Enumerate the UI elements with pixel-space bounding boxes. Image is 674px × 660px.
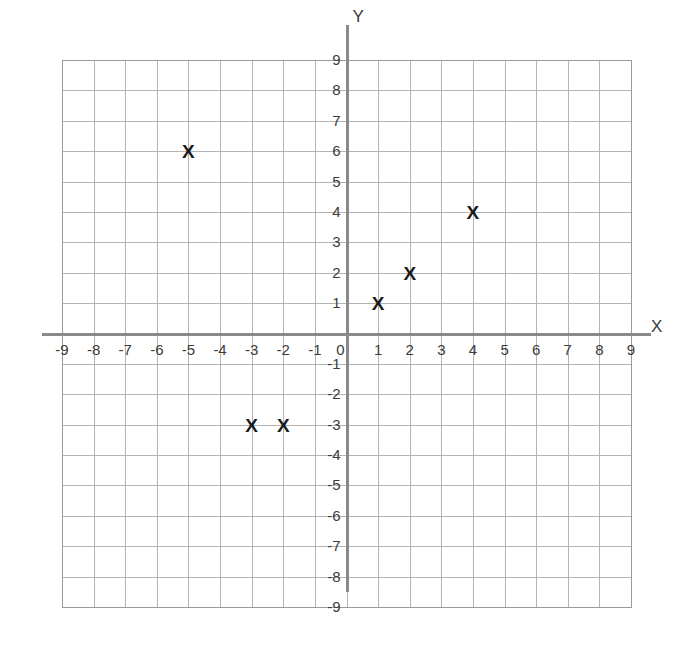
data-point: X — [372, 294, 385, 313]
y-tick-label-4: 4 — [303, 204, 341, 219]
y-tick-label-neg7: -7 — [303, 538, 341, 553]
y-tick-label-neg5: -5 — [303, 477, 341, 492]
y-tick-label-9: 9 — [303, 52, 341, 67]
y-tick-label-3: 3 — [303, 234, 341, 249]
y-tick-label-2: 2 — [303, 265, 341, 280]
y-tick-label-neg8: -8 — [303, 569, 341, 584]
x-tick-label-9: 9 — [611, 342, 651, 357]
y-tick-label-neg9: -9 — [303, 599, 341, 614]
y-axis-line — [346, 25, 349, 592]
y-tick-label-neg2: -2 — [303, 386, 341, 401]
coordinate-plane: -9-8-7-6-5-4-3-2-10123456789987654321-1-… — [0, 0, 674, 660]
y-tick-label-neg1: -1 — [303, 356, 341, 371]
grid-border-bottom — [62, 607, 632, 608]
y-tick-label-5: 5 — [303, 174, 341, 189]
y-tick-label-neg4: -4 — [303, 447, 341, 462]
x-axis-label: X — [651, 318, 662, 335]
y-tick-label-1: 1 — [303, 295, 341, 310]
y-tick-label-6: 6 — [303, 143, 341, 158]
y-tick-label-8: 8 — [303, 82, 341, 97]
data-point: X — [403, 263, 416, 282]
y-tick-label-neg6: -6 — [303, 508, 341, 523]
y-axis-label: Y — [353, 8, 364, 25]
data-point: X — [182, 142, 195, 161]
data-point: X — [277, 415, 290, 434]
y-tick-label-7: 7 — [303, 113, 341, 128]
y-tick-label-neg3: -3 — [303, 417, 341, 432]
data-point: X — [245, 415, 258, 434]
data-point: X — [467, 202, 480, 221]
